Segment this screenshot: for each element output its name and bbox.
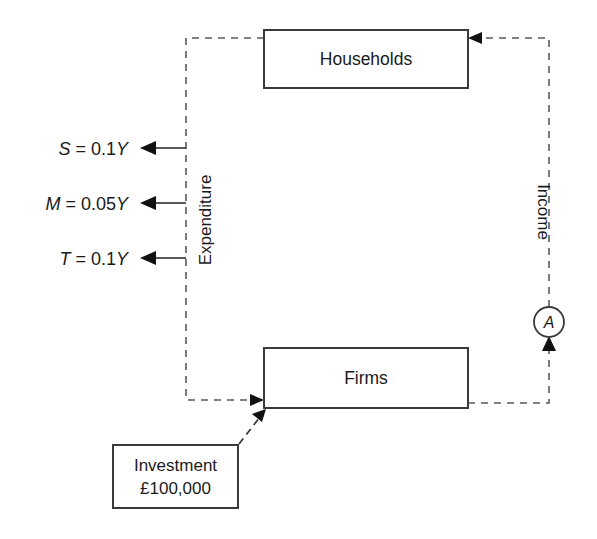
point-a-arrowhead-icon <box>542 336 556 351</box>
savings-leak-label: S = 0.1Y <box>58 139 130 159</box>
income-flow-label: Income <box>534 184 553 240</box>
imports-leak-label: M = 0.05Y <box>45 194 130 214</box>
investment-box <box>113 445 238 508</box>
income-flow-path-upper <box>476 38 549 307</box>
taxes-arrowhead-icon <box>140 251 156 265</box>
point-a-label: A <box>543 314 555 331</box>
savings-arrowhead-icon <box>140 141 156 155</box>
households-label: Households <box>320 49 413 69</box>
imports-arrowhead-icon <box>140 196 156 210</box>
income-flow-path-lower <box>468 340 549 403</box>
income-arrowhead-icon <box>468 32 482 44</box>
firms-label: Firms <box>344 368 388 388</box>
expenditure-arrowhead-icon <box>250 394 264 406</box>
investment-label-line2: £100,000 <box>140 479 211 498</box>
investment-injection-path <box>239 417 260 444</box>
taxes-leak-label: T = 0.1Y <box>59 249 130 269</box>
circular-flow-diagram: A Households Firms Investment £100,000 S… <box>0 0 597 539</box>
investment-arrowhead-icon <box>252 409 266 422</box>
expenditure-flow-label: Expenditure <box>196 175 215 266</box>
flow-diagram-canvas: A Households Firms Investment £100,000 S… <box>0 0 597 539</box>
investment-label-line1: Investment <box>134 456 217 475</box>
